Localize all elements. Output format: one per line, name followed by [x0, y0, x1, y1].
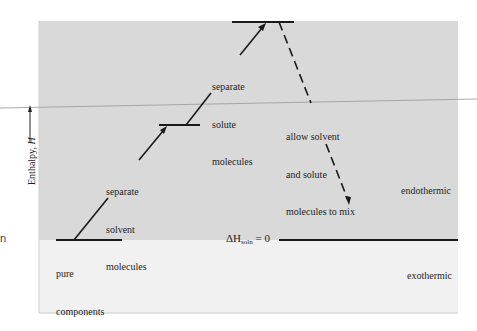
label-endothermic: endothermic	[401, 185, 451, 198]
y-axis-label: Enthalpy, H	[26, 137, 37, 185]
label-exothermic: exothermic	[407, 270, 452, 283]
label-separate-solute: separate solute molecules	[212, 56, 253, 181]
label-separate-solvent: separate solvent molecules	[106, 161, 147, 286]
y-axis-arrowhead-icon	[28, 105, 32, 112]
label-delta-h-soln-zero: ΔHsoln = 0	[226, 232, 270, 246]
label-pure-components: pure components	[56, 243, 104, 331]
edge-text-fragment: n	[0, 232, 6, 244]
label-allow-mix: allow solvent and solute molecules to mi…	[286, 106, 355, 231]
